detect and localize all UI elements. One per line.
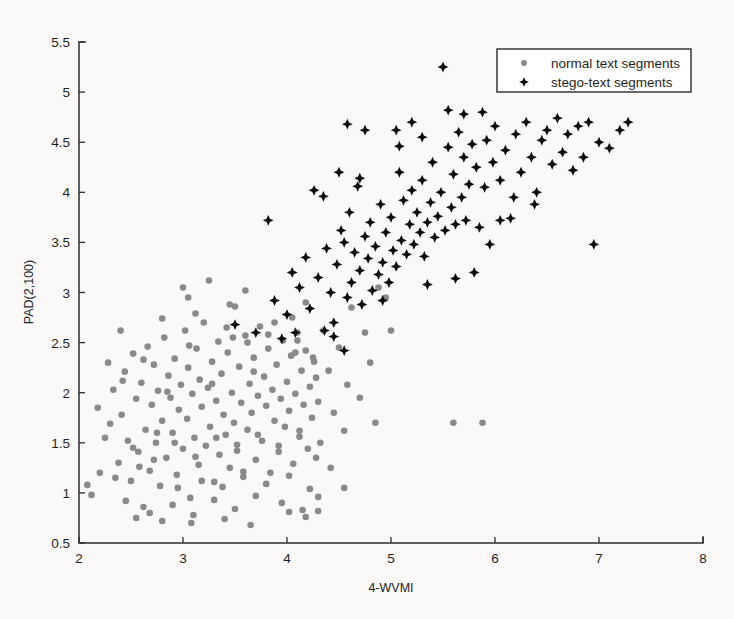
data-point-stego xyxy=(365,217,376,228)
data-point-normal xyxy=(190,512,197,519)
data-point-normal xyxy=(240,469,247,476)
data-point-normal xyxy=(187,495,194,502)
data-point-normal xyxy=(115,460,122,467)
data-point-normal xyxy=(173,472,180,479)
data-point-normal xyxy=(255,392,262,399)
data-point-normal xyxy=(167,394,174,401)
data-point-stego xyxy=(425,197,436,208)
data-point-normal xyxy=(317,440,324,447)
data-point-normal xyxy=(206,277,213,284)
data-point-normal xyxy=(253,493,260,500)
data-point-stego xyxy=(349,247,360,258)
data-point-normal xyxy=(171,440,178,447)
data-point-stego xyxy=(336,225,347,236)
data-point-stego xyxy=(406,185,417,196)
data-point-normal xyxy=(372,419,379,426)
data-point-normal xyxy=(140,356,147,363)
data-point-stego xyxy=(263,215,274,226)
x-tick-label: 7 xyxy=(595,551,603,566)
data-point-normal xyxy=(142,426,149,433)
data-point-stego xyxy=(500,145,511,156)
data-point-normal xyxy=(259,437,266,444)
data-point-stego xyxy=(313,272,324,283)
legend: normal text segments stego-text segments xyxy=(497,49,691,92)
data-point-stego xyxy=(375,199,386,210)
data-point-normal xyxy=(155,387,162,394)
data-point-stego xyxy=(391,125,402,136)
axis-lines xyxy=(79,42,703,543)
data-point-normal xyxy=(151,457,158,464)
data-point-stego xyxy=(427,157,438,168)
data-point-stego xyxy=(406,117,417,128)
data-point-normal xyxy=(97,470,104,477)
data-point-normal xyxy=(313,455,320,462)
y-tick-label: 3.5 xyxy=(51,235,70,250)
data-point-normal xyxy=(236,363,243,370)
data-point-normal xyxy=(307,383,314,390)
data-point-normal xyxy=(344,381,351,388)
data-point-stego xyxy=(460,215,471,226)
data-point-normal xyxy=(209,358,216,365)
data-point-normal xyxy=(244,339,251,346)
data-point-normal xyxy=(169,429,176,436)
data-point-stego xyxy=(458,109,469,120)
data-point-stego xyxy=(536,135,547,146)
data-point-normal xyxy=(222,431,229,438)
data-point-normal xyxy=(284,378,291,385)
data-point-stego xyxy=(339,237,350,248)
data-point-stego xyxy=(450,273,461,284)
x-tick-label: 8 xyxy=(699,551,707,566)
y-tick-label: 5.5 xyxy=(51,35,70,50)
data-point-normal xyxy=(246,380,253,387)
data-point-normal xyxy=(169,502,176,509)
data-point-stego xyxy=(469,267,480,278)
data-point-stego xyxy=(471,162,482,173)
data-point-normal xyxy=(130,350,137,357)
data-point-normal xyxy=(125,437,132,444)
data-point-stego xyxy=(446,202,457,213)
y-tick-label: 0.5 xyxy=(51,536,70,551)
data-point-stego xyxy=(328,331,339,342)
data-point-normal xyxy=(275,449,282,456)
data-point-normal xyxy=(263,402,270,409)
data-point-normal xyxy=(325,367,332,374)
data-point-normal xyxy=(232,506,239,513)
data-point-normal xyxy=(357,394,364,401)
data-point-normal xyxy=(307,486,314,493)
data-point-normal xyxy=(450,419,457,426)
data-point-normal xyxy=(269,386,276,393)
data-point-normal xyxy=(292,349,299,356)
data-point-normal xyxy=(367,359,374,366)
data-point-normal xyxy=(296,433,303,440)
y-tick-label: 5 xyxy=(62,85,70,100)
data-point-normal xyxy=(315,508,322,515)
x-tick-label: 5 xyxy=(387,551,395,566)
data-point-normal xyxy=(211,479,218,486)
data-point-stego xyxy=(391,261,402,272)
data-point-stego xyxy=(456,192,467,203)
data-point-normal xyxy=(300,401,307,408)
data-point-normal xyxy=(313,374,320,381)
data-point-stego xyxy=(386,212,397,223)
data-point-stego xyxy=(269,295,280,306)
data-point-normal xyxy=(277,395,284,402)
data-point-stego xyxy=(568,165,579,176)
data-point-normal xyxy=(223,324,230,331)
data-point-normal xyxy=(198,403,205,410)
axis-ticks xyxy=(79,42,703,543)
data-point-normal xyxy=(136,464,143,471)
data-point-stego xyxy=(526,152,537,163)
data-point-stego xyxy=(388,245,399,256)
data-point-normal xyxy=(186,342,193,349)
data-point-normal xyxy=(253,457,260,464)
data-point-stego xyxy=(408,239,419,250)
data-point-normal xyxy=(112,475,119,482)
data-point-normal xyxy=(302,299,309,306)
data-point-stego xyxy=(373,269,384,280)
data-point-normal xyxy=(102,434,109,441)
data-point-normal xyxy=(310,354,317,361)
data-point-normal xyxy=(203,443,210,450)
data-point-stego xyxy=(394,141,405,152)
data-point-stego xyxy=(542,125,553,136)
y-tick-label: 1.5 xyxy=(51,436,70,451)
